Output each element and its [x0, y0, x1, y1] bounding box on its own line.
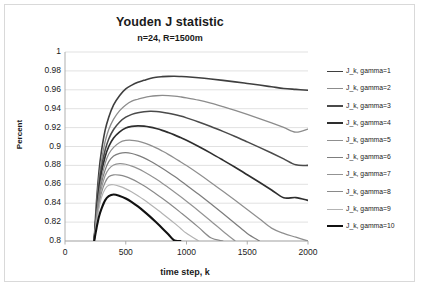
legend-item-label: J_k, gamma=4 — [346, 120, 391, 127]
legend-item-label: J_k, gamma=3 — [346, 103, 391, 110]
legend: J_k, gamma=1J_k, gamma=2J_k, gamma=3J_k,… — [327, 63, 413, 235]
legend-item-gamma-10[interactable]: J_k, gamma=10 — [327, 218, 413, 235]
legend-item-gamma-3[interactable]: J_k, gamma=3 — [327, 97, 413, 114]
legend-item-label: J_k, gamma=8 — [346, 189, 391, 196]
legend-line-swatch — [327, 105, 343, 106]
legend-line-swatch — [327, 71, 343, 72]
legend-item-gamma-9[interactable]: J_k, gamma=9 — [327, 201, 413, 218]
chart-frame: Youden J statistic n=24, R=1500m Percent… — [4, 4, 415, 282]
legend-line-swatch — [327, 140, 343, 141]
legend-item-gamma-6[interactable]: J_k, gamma=6 — [327, 149, 413, 166]
chart-area: Youden J statistic n=24, R=1500m Percent… — [5, 5, 414, 281]
series-line-4 — [94, 126, 308, 241]
series-lines — [94, 76, 308, 241]
legend-item-gamma-1[interactable]: J_k, gamma=1 — [327, 63, 413, 80]
legend-line-swatch — [327, 174, 343, 175]
legend-item-label: J_k, gamma=5 — [346, 137, 391, 144]
legend-item-label: J_k, gamma=1 — [346, 68, 391, 75]
legend-line-swatch — [327, 225, 343, 227]
legend-line-swatch — [327, 122, 343, 124]
legend-line-swatch — [327, 209, 343, 210]
legend-item-gamma-2[interactable]: J_k, gamma=2 — [327, 80, 413, 97]
legend-line-swatch — [327, 88, 343, 89]
legend-line-swatch — [327, 191, 343, 192]
legend-item-label: J_k, gamma=2 — [346, 85, 391, 92]
legend-line-swatch — [327, 157, 343, 158]
legend-item-label: J_k, gamma=6 — [346, 154, 391, 161]
series-line-6 — [94, 153, 259, 241]
legend-item-gamma-4[interactable]: J_k, gamma=4 — [327, 115, 413, 132]
legend-item-gamma-8[interactable]: J_k, gamma=8 — [327, 183, 413, 200]
legend-item-label: J_k, gamma=10 — [346, 223, 395, 230]
legend-item-gamma-5[interactable]: J_k, gamma=5 — [327, 132, 413, 149]
legend-item-gamma-7[interactable]: J_k, gamma=7 — [327, 166, 413, 183]
legend-item-label: J_k, gamma=9 — [346, 206, 391, 213]
legend-item-label: J_k, gamma=7 — [346, 171, 391, 178]
